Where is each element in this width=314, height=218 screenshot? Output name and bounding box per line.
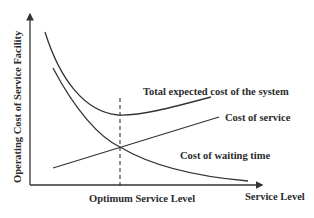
optimum-label: Optimum Service Level	[89, 193, 195, 204]
y-axis-label: Operating Cost of Service Facility	[12, 31, 23, 183]
total-cost-label: Total expected cost of the system	[143, 86, 289, 97]
waiting-cost-label: Cost of waiting time	[180, 150, 270, 161]
chart-canvas	[0, 0, 314, 218]
x-axis-label: Service Level	[245, 191, 305, 202]
total-cost-curve	[45, 32, 211, 115]
service-cost-label: Cost of service	[225, 112, 290, 123]
waiting-cost-curve	[53, 68, 248, 181]
